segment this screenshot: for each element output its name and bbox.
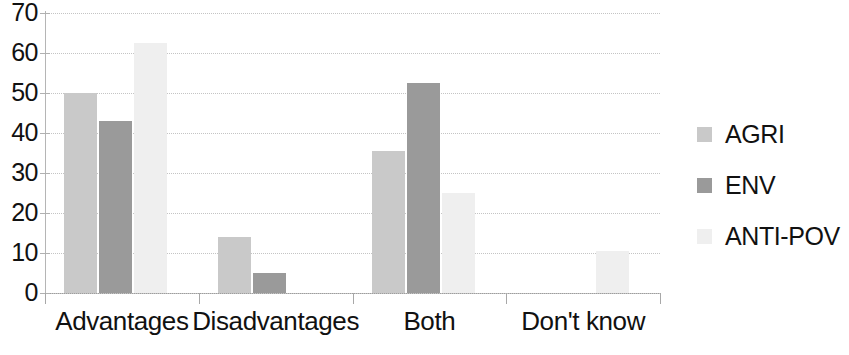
bar-anti-pov-2	[442, 193, 475, 293]
y-tick-mark-40	[40, 133, 50, 134]
bar-env-1	[253, 273, 286, 293]
x-axis-category-tick-2	[353, 293, 354, 304]
bar-chart: 706050403020100 AdvantagesDisadvantagesB…	[0, 0, 849, 355]
x-axis-category-tick-3	[506, 293, 507, 304]
y-tick-label-10: 10	[0, 240, 38, 265]
x-axis-category-labels: AdvantagesDisadvantagesBothDon't know	[45, 306, 660, 350]
x-axis-label-3: Don't know	[492, 306, 674, 336]
legend-label-env: ENV	[725, 173, 775, 198]
legend-label-agri: AGRI	[725, 122, 785, 147]
bar-agri-2	[372, 151, 405, 293]
y-tick-mark-70	[40, 13, 50, 14]
bar-env-2	[407, 83, 440, 293]
y-tick-label-0: 0	[0, 280, 38, 305]
y-tick-mark-60	[40, 53, 50, 54]
legend-item-agri[interactable]: AGRI	[697, 118, 785, 150]
x-axis-end-tick-1	[660, 293, 661, 304]
legend-item-env[interactable]: ENV	[697, 169, 775, 201]
gridline-70	[45, 13, 660, 14]
bar-anti-pov-3	[596, 251, 629, 293]
y-tick-label-40: 40	[0, 120, 38, 145]
legend-swatch-agri	[697, 127, 712, 142]
y-tick-label-20: 20	[0, 200, 38, 225]
y-tick-mark-50	[40, 93, 50, 94]
x-axis-category-tick-1	[199, 293, 200, 304]
y-tick-label-70: 70	[0, 0, 38, 25]
y-tick-mark-20	[40, 213, 50, 214]
bar-anti-pov-0	[134, 43, 167, 293]
y-axis-tick-labels: 706050403020100	[0, 0, 38, 355]
bar-agri-1	[218, 237, 251, 293]
chart-legend: AGRIENVANTI-POV	[697, 118, 847, 238]
y-tick-mark-30	[40, 173, 50, 174]
legend-swatch-env	[697, 178, 712, 193]
x-axis-end-tick-0	[45, 293, 46, 304]
bar-agri-0	[64, 93, 97, 293]
y-tick-label-60: 60	[0, 40, 38, 65]
y-tick-label-30: 30	[0, 160, 38, 185]
y-tick-mark-10	[40, 253, 50, 254]
legend-swatch-anti-pov	[697, 229, 712, 244]
bar-env-0	[99, 121, 132, 293]
legend-item-anti-pov[interactable]: ANTI-POV	[697, 220, 840, 252]
legend-label-anti-pov: ANTI-POV	[725, 224, 840, 249]
y-tick-label-50: 50	[0, 80, 38, 105]
plot-area	[45, 13, 660, 293]
